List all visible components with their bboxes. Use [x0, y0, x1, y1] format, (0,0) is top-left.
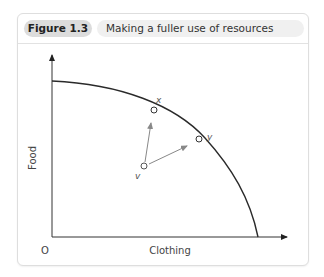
y-axis-label: Food — [27, 146, 38, 170]
frontier-curve — [52, 81, 258, 237]
origin-label: O — [41, 245, 49, 256]
x-axis-label: Clothing — [149, 245, 191, 256]
point-y — [196, 136, 202, 142]
arrow-v-to-x — [145, 123, 151, 162]
arrow-v-to-y — [149, 146, 187, 164]
ppf-diagram: x y v Food Clothing O — [0, 0, 324, 277]
point-x — [151, 107, 157, 113]
point-y-label: y — [206, 132, 213, 142]
point-v-label: v — [135, 171, 141, 181]
point-x-label: x — [155, 95, 162, 105]
point-v — [141, 163, 147, 169]
